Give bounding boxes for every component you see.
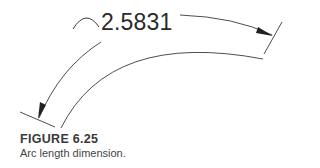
arc-length-symbol-icon bbox=[73, 18, 99, 29]
figure-label: FIGURE 6.25 bbox=[20, 132, 98, 146]
extension-line-left bbox=[20, 112, 55, 127]
dimension-line-left bbox=[39, 42, 101, 118]
arrowhead-left-icon bbox=[38, 102, 46, 119]
extension-line-right bbox=[264, 22, 282, 54]
dimension-value: 2.5831 bbox=[101, 11, 173, 34]
arrowhead-right-icon bbox=[256, 27, 273, 36]
object-arc bbox=[61, 52, 263, 128]
figure-caption: Arc length dimension. bbox=[20, 147, 126, 159]
